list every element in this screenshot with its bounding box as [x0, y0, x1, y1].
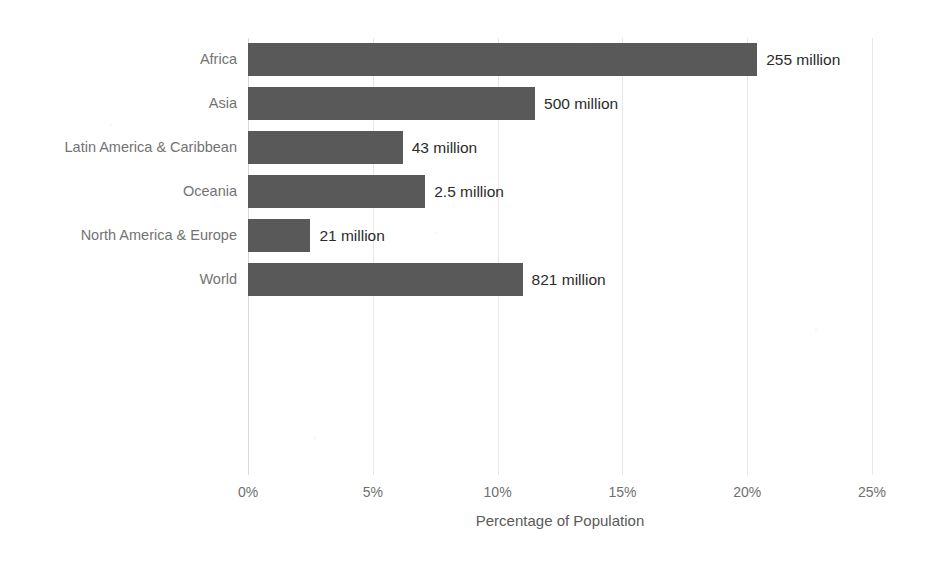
x-tick-label: 25%: [858, 484, 886, 500]
bar-row: 821 million: [248, 258, 872, 302]
bar-data-label: 255 million: [757, 43, 840, 76]
plot-area: 255 million500 million43 million2.5 mill…: [248, 38, 872, 475]
category-label: World: [199, 263, 248, 296]
bar-row: 21 million: [248, 214, 872, 258]
bar-row: 255 million: [248, 38, 872, 82]
bar-data-label: 21 million: [310, 219, 384, 252]
category-axis: AfricaAsiaLatin America & CaribbeanOcean…: [0, 38, 248, 475]
bar-data-label: 821 million: [523, 263, 606, 296]
bar-data-label: 500 million: [535, 87, 618, 120]
bar[interactable]: [248, 263, 523, 296]
x-tick-label: 0%: [238, 484, 258, 500]
bar-row: 500 million: [248, 82, 872, 126]
gridline-25%: [872, 38, 873, 475]
bar-row: 43 million: [248, 126, 872, 170]
bar-data-label: 2.5 million: [425, 175, 504, 208]
category-label: North America & Europe: [81, 219, 248, 252]
bar[interactable]: [248, 175, 425, 208]
x-tick-label: 20%: [733, 484, 761, 500]
bar[interactable]: [248, 219, 310, 252]
x-tick-label: 10%: [484, 484, 512, 500]
bar[interactable]: [248, 43, 757, 76]
bar-chart: AfricaAsiaLatin America & CaribbeanOcean…: [0, 0, 927, 569]
x-axis-title: Percentage of Population: [248, 512, 872, 529]
x-tick-label: 5%: [363, 484, 383, 500]
bar-data-label: 43 million: [403, 131, 477, 164]
category-label: Latin America & Caribbean: [65, 131, 249, 164]
bar[interactable]: [248, 131, 403, 164]
x-tick-label: 15%: [608, 484, 636, 500]
category-label: Africa: [200, 43, 248, 76]
category-label: Oceania: [183, 175, 248, 208]
bar-row: 2.5 million: [248, 170, 872, 214]
category-label: Asia: [209, 87, 248, 120]
bar[interactable]: [248, 87, 535, 120]
